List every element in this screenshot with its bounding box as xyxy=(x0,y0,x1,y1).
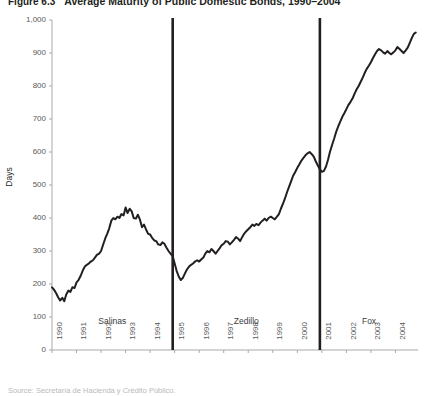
x-tick-label: 1997 xyxy=(227,322,235,356)
x-tick-label: 1996 xyxy=(203,322,211,356)
x-tick-label: 1990 xyxy=(56,322,64,356)
x-tick-label: 1993 xyxy=(129,322,137,356)
era-label-fox: Fox xyxy=(362,316,376,326)
x-tick-label: 1992 xyxy=(105,322,113,356)
x-tick-label: 1994 xyxy=(154,322,162,356)
x-tick-label: 1995 xyxy=(178,322,186,356)
x-tick-label: 2004 xyxy=(399,322,407,356)
x-tick-label: 2003 xyxy=(374,322,382,356)
x-tick-label: 2002 xyxy=(350,322,358,356)
era-label-zedillo: Zedillo xyxy=(234,316,259,326)
x-tick-label: 2000 xyxy=(301,322,309,356)
x-tick-label: 1999 xyxy=(276,322,284,356)
x-tick-label: 1991 xyxy=(80,322,88,356)
era-label-salinas: Salinas xyxy=(98,316,126,326)
source-note: Source: Secretaría de Hacienda y Crédito… xyxy=(8,386,418,396)
x-tick-label: 1998 xyxy=(252,322,260,356)
x-tick-label: 2001 xyxy=(325,322,333,356)
